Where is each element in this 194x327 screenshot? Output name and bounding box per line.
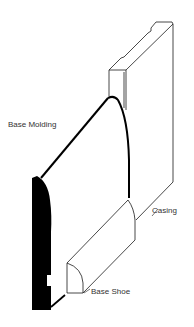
base-shoe-label: Base Shoe: [91, 288, 130, 296]
base-shoe: [67, 200, 135, 293]
trim-molding-diagram: [0, 0, 194, 327]
base-molding-label: Base Molding: [8, 121, 56, 129]
base-molding-profile: [32, 176, 51, 310]
casing-label: Casing: [152, 207, 177, 215]
casing: [109, 22, 173, 220]
